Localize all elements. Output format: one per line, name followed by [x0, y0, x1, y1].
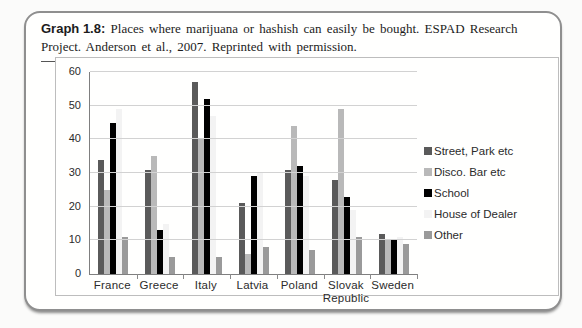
bar-cluster — [90, 72, 137, 274]
y-tick-label: 0 — [75, 268, 81, 279]
gridline — [90, 71, 417, 72]
y-axis-labels: 0102030405060 — [56, 72, 84, 274]
x-axis-tick — [417, 274, 418, 279]
bar-chart: 0102030405060 FranceGreeceItalyLatviaPol… — [55, 57, 559, 296]
y-tick-label: 30 — [69, 167, 81, 178]
gridline — [90, 138, 417, 139]
x-axis-label: Italy — [182, 279, 229, 305]
bar-cluster — [277, 72, 324, 274]
legend-item: House of Dealer — [424, 203, 517, 224]
x-axis-label: Sweden — [369, 279, 416, 305]
legend-swatch — [424, 210, 432, 218]
gridline — [90, 172, 417, 173]
legend-label: School — [434, 187, 469, 199]
y-tick-label: 60 — [69, 66, 81, 77]
legend-label: Disco. Bar etc — [434, 166, 506, 178]
x-axis-label: Latvia — [229, 279, 276, 305]
caption-label: Graph 1.8: — [41, 21, 105, 36]
legend-swatch — [424, 147, 432, 155]
bar — [263, 247, 269, 274]
bar — [210, 116, 216, 274]
gridline — [90, 239, 417, 240]
x-axis-label: France — [89, 279, 136, 305]
bar — [309, 250, 315, 274]
plot-area — [89, 72, 417, 275]
bar — [122, 237, 128, 274]
caption-text: Places where marijuana or hashish can ea… — [41, 21, 517, 54]
legend-item: Disco. Bar etc — [424, 161, 517, 182]
legend-item: School — [424, 182, 517, 203]
gridline — [90, 206, 417, 207]
y-tick-label: 40 — [69, 133, 81, 144]
x-axis-label: Slovak Republic — [323, 279, 370, 305]
figure-frame: Graph 1.8: Places where marijuana or has… — [24, 11, 562, 311]
bar-cluster — [137, 72, 184, 274]
legend-swatch — [424, 189, 432, 197]
legend-swatch — [424, 231, 432, 239]
figure-caption: Graph 1.8: Places where marijuana or has… — [41, 20, 542, 56]
legend-label: Street, Park etc — [434, 145, 513, 157]
bar — [216, 257, 222, 274]
legend-item: Street, Park etc — [424, 140, 517, 161]
bar — [356, 237, 362, 274]
legend-swatch — [424, 168, 432, 176]
x-axis-label: Poland — [276, 279, 323, 305]
legend-item: Other — [424, 224, 517, 245]
bar-cluster — [324, 72, 371, 274]
x-axis-labels: FranceGreeceItalyLatviaPolandSlovak Repu… — [89, 279, 416, 305]
bar-cluster — [230, 72, 277, 274]
bar-cluster — [183, 72, 230, 274]
bar — [169, 257, 175, 274]
chart-legend: Street, Park etcDisco. Bar etcSchoolHous… — [424, 140, 517, 245]
y-tick-label: 50 — [69, 100, 81, 111]
legend-label: House of Dealer — [434, 208, 517, 220]
bar — [403, 244, 409, 274]
bar-cluster — [370, 72, 417, 274]
gridline — [90, 105, 417, 106]
y-tick-label: 10 — [69, 234, 81, 245]
y-tick-label: 20 — [69, 201, 81, 212]
x-axis-label: Greece — [136, 279, 183, 305]
legend-label: Other — [434, 229, 463, 241]
